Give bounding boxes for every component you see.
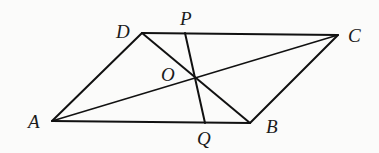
label-q: Q [197, 128, 211, 149]
label-d: D [115, 21, 130, 42]
label-c: C [348, 25, 361, 46]
segment-pq [185, 33, 205, 123]
parallelogram-diagram: A B C D O P Q [0, 0, 379, 153]
label-p: P [179, 8, 192, 29]
segment-cd [142, 33, 338, 35]
label-o: O [161, 64, 175, 85]
label-a: A [26, 111, 40, 132]
segment-ab [52, 121, 250, 123]
label-b: B [266, 116, 278, 137]
